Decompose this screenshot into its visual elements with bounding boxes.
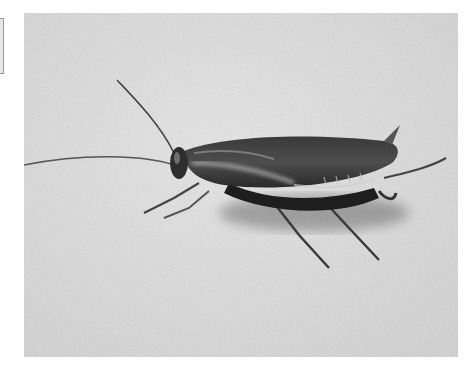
- eye-highlight: [174, 152, 180, 164]
- head: [170, 147, 188, 179]
- cockroach-photo: Black and white photo of a cockroach wal…: [24, 13, 458, 357]
- edge-bracket: [0, 18, 4, 74]
- cockroach-illustration: [24, 13, 458, 357]
